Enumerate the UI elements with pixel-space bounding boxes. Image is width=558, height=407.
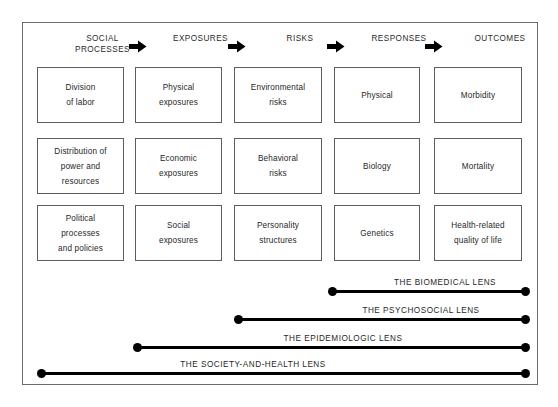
- box-label: Distribution of power and resources: [54, 144, 106, 189]
- right-arrow-icon: [228, 40, 246, 53]
- box-mortality: Mortality: [434, 138, 522, 194]
- box-label: Mortality: [462, 159, 494, 174]
- lens-endpoint-dot-left: [133, 343, 142, 352]
- lens-label-psychosocial: THE PSYCHOSOCIAL LENS: [362, 306, 479, 315]
- right-arrow-icon: [327, 40, 345, 53]
- box-label: Environmental risks: [251, 80, 305, 110]
- lens-endpoint-dot-right: [521, 369, 530, 378]
- box-genetics: Genetics: [334, 205, 420, 261]
- box-division-of-labor: Division of labor: [37, 67, 124, 123]
- lens-label-biomedical: THE BIOMEDICAL LENS: [394, 278, 496, 287]
- box-label: Division of labor: [66, 80, 96, 110]
- box-label: Social exposures: [159, 218, 198, 248]
- box-morbidity: Morbidity: [434, 67, 522, 123]
- box-label: Physical: [361, 88, 393, 103]
- box-label: Health-related quality of life: [451, 218, 505, 248]
- box-label: Biology: [363, 159, 391, 174]
- lens-line-psychosocial: [238, 318, 527, 321]
- lens-endpoint-dot-right: [521, 315, 530, 324]
- box-label: Morbidity: [461, 88, 496, 103]
- lens-label-society-and-health: THE SOCIETY-AND-HEALTH LENS: [180, 360, 325, 369]
- lens-line-epidemiologic: [137, 346, 527, 349]
- box-health-related-quality-of-life: Health-related quality of life: [434, 205, 522, 261]
- lens-endpoint-dot-left: [234, 315, 243, 324]
- right-arrow-icon: [129, 40, 147, 53]
- box-political-processes-and-policies: Political processes and policies: [37, 205, 124, 261]
- lens-line-society-and-health: [41, 372, 527, 375]
- diagram-frame: SOCIAL PROCESSES EXPOSURES RISKS RESPONS…: [22, 22, 538, 385]
- column-header-outcomes: OUTCOMES: [456, 33, 544, 44]
- box-label: Political processes and policies: [58, 211, 103, 256]
- lens-label-epidemiologic: THE EPIDEMIOLOGIC LENS: [284, 334, 403, 343]
- lens-endpoint-dot-right: [521, 287, 530, 296]
- box-label: Economic exposures: [159, 151, 198, 181]
- box-label: Personality structures: [257, 218, 299, 248]
- box-environmental-risks: Environmental risks: [234, 67, 322, 123]
- box-physical-exposures: Physical exposures: [135, 67, 222, 123]
- box-distribution-of-power-and-resources: Distribution of power and resources: [37, 138, 124, 194]
- lens-endpoint-dot-left: [37, 369, 46, 378]
- box-personality-structures: Personality structures: [234, 205, 322, 261]
- box-behavioral-risks: Behavioral risks: [234, 138, 322, 194]
- box-physical: Physical: [334, 67, 420, 123]
- lens-endpoint-dot-right: [521, 343, 530, 352]
- box-label: Physical exposures: [159, 80, 198, 110]
- box-label: Behavioral risks: [258, 151, 298, 181]
- lens-line-biomedical: [332, 290, 527, 293]
- column-header-band: SOCIAL PROCESSES EXPOSURES RISKS RESPONS…: [23, 29, 537, 61]
- right-arrow-icon: [425, 40, 443, 53]
- lens-endpoint-dot-left: [328, 287, 337, 296]
- box-economic-exposures: Economic exposures: [135, 138, 222, 194]
- box-label: Genetics: [360, 226, 394, 241]
- box-social-exposures: Social exposures: [135, 205, 222, 261]
- box-biology: Biology: [334, 138, 420, 194]
